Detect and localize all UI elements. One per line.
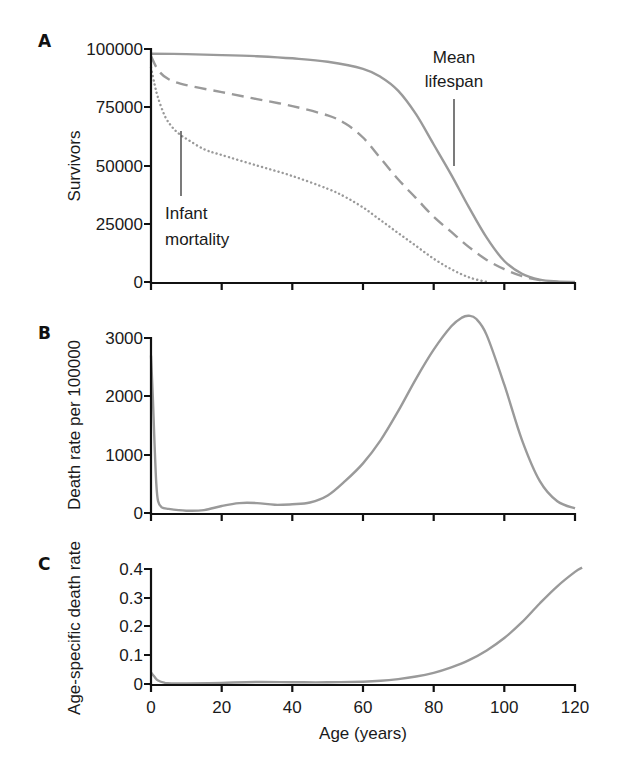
panel-letter-c: C — [38, 554, 50, 574]
x-tick-label: 120 — [561, 698, 589, 717]
axes-b — [144, 337, 575, 521]
y-tick-label: 0.1 — [119, 646, 143, 665]
y-tick-label: 0 — [134, 273, 143, 292]
infant-mortality-label-2: mortality — [165, 230, 230, 249]
plot-area-c — [151, 568, 582, 684]
y-tick-label: 0.2 — [119, 617, 143, 636]
y-axis-title-c: Age-specific death rate — [65, 541, 84, 715]
x-tick-label: 0 — [146, 698, 155, 717]
x-tick-label: 40 — [283, 698, 302, 717]
axes-a — [144, 48, 575, 290]
infant-mortality-label-1: Infant — [165, 204, 208, 223]
x-tick-label: 100 — [490, 698, 518, 717]
y-tick-label: 50000 — [96, 157, 143, 176]
y-tick-label: 0.4 — [119, 560, 143, 579]
y-tick-label: 2000 — [105, 387, 143, 406]
panel-a: Survivors 100000 75000 50000 25000 0 Mea… — [65, 40, 575, 292]
y-tick-label: 100000 — [86, 40, 143, 59]
y-tick-label: 0 — [134, 675, 143, 694]
series-line-dotted — [151, 68, 487, 282]
y-tick-label: 0.3 — [119, 589, 143, 608]
y-tick-label: 75000 — [96, 98, 143, 117]
axes-c — [144, 568, 575, 692]
panel-letter-b: B — [38, 323, 51, 343]
mean-lifespan-label-2: lifespan — [425, 72, 484, 91]
panel-c: Age-specific death rate 0.4 0.3 0.2 0.1 … — [65, 541, 589, 743]
x-tick-label: 80 — [424, 698, 443, 717]
figure: A B C Survivors 100000 75000 50000 25000… — [0, 0, 617, 765]
x-axis-title: Age (years) — [319, 724, 407, 743]
y-tick-label: 25000 — [96, 215, 143, 234]
y-axis-title-b: Death rate per 100000 — [65, 340, 84, 510]
series-line-solid — [151, 568, 582, 684]
series-line-solid — [151, 316, 575, 511]
panel-b: Death rate per 100000 3000 2000 1000 0 — [65, 316, 575, 523]
panel-letter-a: A — [38, 31, 52, 51]
y-tick-label: 0 — [134, 504, 143, 523]
x-tick-label: 20 — [212, 698, 231, 717]
y-tick-label: 3000 — [105, 329, 143, 348]
mean-lifespan-label-1: Mean — [433, 48, 476, 67]
y-axis-title-a: Survivors — [65, 131, 84, 202]
x-tick-label: 60 — [354, 698, 373, 717]
plot-area-b — [151, 316, 575, 511]
y-tick-label: 1000 — [105, 446, 143, 465]
